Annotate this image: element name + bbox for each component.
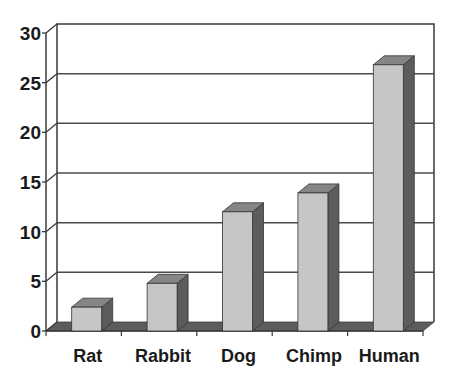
bar-rat	[72, 298, 113, 331]
y-tick-label: 15	[20, 172, 42, 193]
y-tick-label: 10	[20, 222, 41, 243]
x-tick-label-rat: Rat	[73, 346, 102, 366]
x-tick-label-chimp: Chimp	[286, 346, 342, 366]
bars	[72, 56, 415, 331]
bar-chimp	[298, 184, 339, 331]
y-axis: 051015202530	[20, 23, 57, 342]
x-axis: RatRabbitDogChimpHuman	[46, 331, 423, 366]
y-tick-label: 0	[30, 321, 41, 342]
bar-human	[373, 56, 414, 331]
x-tick-label-rabbit: Rabbit	[135, 346, 191, 366]
bar-dog	[223, 203, 264, 331]
x-tick-label-dog: Dog	[221, 346, 256, 366]
y-tick-label: 20	[20, 122, 41, 143]
bar-rabbit	[147, 274, 188, 331]
y-tick-label: 25	[20, 73, 42, 94]
x-tick-label-human: Human	[359, 346, 420, 366]
y-tick-label: 5	[30, 271, 41, 292]
y-tick-label: 30	[20, 23, 41, 44]
bar-chart: 051015202530 RatRabbitDogChimpHuman	[0, 0, 458, 384]
